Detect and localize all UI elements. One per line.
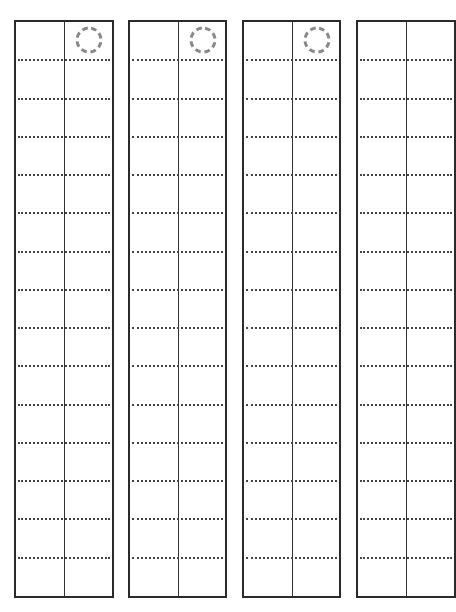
dotted-row-line [246, 136, 337, 138]
dotted-row-line [360, 327, 452, 329]
dotted-row-line [132, 251, 223, 253]
dotted-row-line [360, 212, 452, 214]
dotted-row-line [360, 480, 452, 482]
dotted-row-line [18, 289, 110, 291]
dotted-row-line [246, 59, 337, 61]
dotted-row-line [246, 404, 337, 406]
dotted-row-line [18, 518, 110, 520]
dotted-row-line [360, 557, 452, 559]
dotted-row-line [132, 289, 223, 291]
dotted-row-line [18, 212, 110, 214]
column-divider [406, 22, 407, 596]
dotted-row-line [18, 557, 110, 559]
dashed-circle-icon [74, 25, 104, 55]
dotted-row-line [360, 404, 452, 406]
dotted-row-line [132, 480, 223, 482]
dotted-row-line [246, 98, 337, 100]
writing-column-4 [356, 20, 456, 598]
dotted-row-line [132, 518, 223, 520]
dotted-row-line [246, 442, 337, 444]
dotted-row-line [18, 404, 110, 406]
dotted-row-line [132, 442, 223, 444]
dotted-row-line [18, 327, 110, 329]
dotted-row-line [246, 289, 337, 291]
dotted-row-line [246, 365, 337, 367]
dotted-row-line [132, 557, 223, 559]
dotted-row-line [246, 518, 337, 520]
dotted-row-line [360, 251, 452, 253]
column-divider [292, 22, 293, 596]
dotted-row-line [18, 365, 110, 367]
dotted-row-line [18, 251, 110, 253]
dashed-circle-icon [188, 25, 218, 55]
writing-column-1 [14, 20, 114, 598]
dotted-row-line [132, 59, 223, 61]
dotted-row-line [132, 404, 223, 406]
dotted-row-line [360, 442, 452, 444]
dotted-row-line [132, 327, 223, 329]
dotted-row-line [18, 98, 110, 100]
dotted-row-line [18, 59, 110, 61]
dotted-row-line [132, 365, 223, 367]
column-divider [178, 22, 179, 596]
dotted-row-line [360, 136, 452, 138]
column-divider [64, 22, 65, 596]
dotted-row-line [360, 59, 452, 61]
dotted-row-line [132, 174, 223, 176]
writing-column-2 [128, 20, 227, 598]
dotted-row-line [132, 212, 223, 214]
dotted-row-line [360, 98, 452, 100]
dotted-row-line [360, 174, 452, 176]
dotted-row-line [18, 442, 110, 444]
dotted-row-line [360, 289, 452, 291]
dotted-row-line [246, 212, 337, 214]
dashed-circle-icon [302, 25, 332, 55]
dotted-row-line [246, 327, 337, 329]
dotted-row-line [360, 365, 452, 367]
dotted-row-line [246, 557, 337, 559]
dotted-row-line [246, 174, 337, 176]
dotted-row-line [132, 136, 223, 138]
dotted-row-line [18, 174, 110, 176]
dotted-row-line [246, 480, 337, 482]
dotted-row-line [360, 518, 452, 520]
dotted-row-line [18, 136, 110, 138]
dotted-row-line [132, 98, 223, 100]
writing-column-3 [242, 20, 341, 598]
dotted-row-line [246, 251, 337, 253]
dotted-row-line [18, 480, 110, 482]
